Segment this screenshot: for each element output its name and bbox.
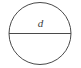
diameter-label: d bbox=[0, 18, 81, 29]
geometry-figure: d bbox=[0, 0, 81, 68]
circle-diameter-drawing bbox=[0, 0, 81, 68]
